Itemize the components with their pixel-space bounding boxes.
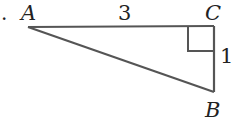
side-ab-hypotenuse: [28, 27, 214, 92]
triangle-diagram: . A 3 C 1 B: [0, 0, 232, 134]
side-label-cb: 1: [220, 44, 232, 68]
side-ac: [28, 26, 214, 27]
right-angle-marker: [188, 26, 214, 51]
side-label-ac: 3: [118, 1, 131, 25]
vertex-label-b: B: [204, 98, 220, 122]
bullet-dot: .: [1, 1, 7, 25]
vertex-label-a: A: [19, 1, 36, 25]
vertex-label-c: C: [205, 1, 221, 25]
